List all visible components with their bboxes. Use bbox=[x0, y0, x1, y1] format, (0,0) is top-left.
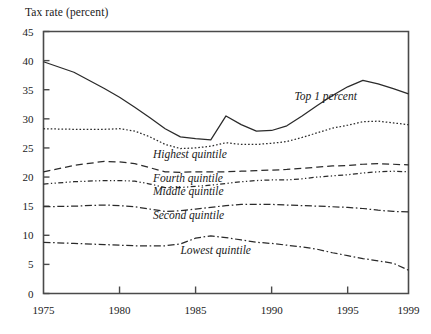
series-label: Lowest quintile bbox=[179, 244, 251, 257]
y-tick-label: 15 bbox=[23, 200, 35, 212]
chart-figure: Tax rate (percent) 051015202530354045 19… bbox=[0, 0, 431, 334]
series-label: Top 1 percent bbox=[294, 90, 357, 103]
x-tick-label: 1999 bbox=[398, 304, 421, 316]
x-tick-label: 1975 bbox=[33, 304, 56, 316]
series-label: Fourth quintile bbox=[152, 172, 223, 185]
y-axis-tick-marks bbox=[44, 32, 50, 294]
y-tick-label: 25 bbox=[23, 142, 35, 154]
series-line bbox=[44, 161, 409, 172]
x-tick-label: 1990 bbox=[261, 304, 284, 316]
y-tick-label: 40 bbox=[23, 55, 35, 67]
series-line bbox=[44, 204, 409, 212]
series-line bbox=[44, 121, 409, 148]
series-annotations: Top 1 percentHighest quintileFourth quin… bbox=[152, 90, 358, 257]
x-tick-label: 1980 bbox=[109, 304, 132, 316]
y-tick-label: 0 bbox=[28, 288, 34, 300]
series-label: Second quintile bbox=[153, 209, 224, 222]
series-label: Middle quintile bbox=[152, 185, 224, 198]
series-label: Highest quintile bbox=[152, 148, 227, 161]
y-axis-tick-labels: 051015202530354045 bbox=[23, 26, 35, 300]
y-tick-label: 45 bbox=[23, 26, 35, 38]
y-tick-label: 10 bbox=[23, 229, 35, 241]
y-tick-label: 20 bbox=[23, 171, 35, 183]
x-axis-tick-marks bbox=[120, 287, 348, 294]
x-tick-label: 1985 bbox=[185, 304, 208, 316]
x-tick-label: 1995 bbox=[337, 304, 360, 316]
y-tick-label: 5 bbox=[28, 258, 34, 270]
line-chart-plot: 051015202530354045 197519801985199019951… bbox=[0, 0, 431, 334]
y-tick-label: 35 bbox=[23, 84, 35, 96]
series-line bbox=[44, 171, 409, 187]
x-axis-tick-labels: 197519801985199019951999 bbox=[33, 304, 421, 316]
y-tick-label: 30 bbox=[23, 113, 35, 125]
